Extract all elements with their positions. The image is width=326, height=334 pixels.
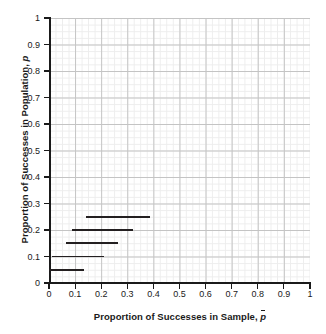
interval-segment [72, 229, 133, 231]
y-axis-title-symbol: p [19, 56, 30, 62]
y-tick [44, 150, 49, 151]
y-tick-label: 0.9 [0, 40, 40, 50]
y-tick [44, 70, 49, 71]
x-axis-title-text: Proportion of Successes in Sample, [94, 311, 260, 322]
y-tick-label: 0.5 [0, 146, 40, 156]
y-tick-label: 0.4 [0, 172, 40, 182]
y-tick-label: 0.2 [0, 225, 40, 235]
y-tick [44, 44, 49, 45]
y-tick [44, 17, 49, 18]
interval-segment [86, 216, 150, 218]
x-axis-title-symbol: p [260, 311, 266, 322]
y-tick [44, 123, 49, 124]
x-tick-label: 1 [293, 289, 326, 299]
y-tick [44, 229, 49, 230]
y-tick-label: 1 [0, 13, 40, 23]
y-tick [44, 256, 49, 257]
y-tick-label: 0.7 [0, 93, 40, 103]
chart-figure: Proportion of Successes in Population, p… [0, 0, 326, 334]
interval-segment [49, 269, 84, 271]
y-tick-label: 0.1 [0, 252, 40, 262]
x-axis-title: Proportion of Successes in Sample, p [49, 311, 311, 322]
interval-segment [52, 256, 104, 258]
y-tick [44, 176, 49, 177]
y-axis-line [49, 17, 51, 284]
y-tick-label: 0.8 [0, 66, 40, 76]
y-tick-label: 0 [0, 278, 40, 288]
interval-segment [66, 242, 118, 244]
y-tick [44, 203, 49, 204]
y-tick-label: 0.3 [0, 199, 40, 209]
y-tick-label: 0.6 [0, 119, 40, 129]
y-tick [44, 97, 49, 98]
